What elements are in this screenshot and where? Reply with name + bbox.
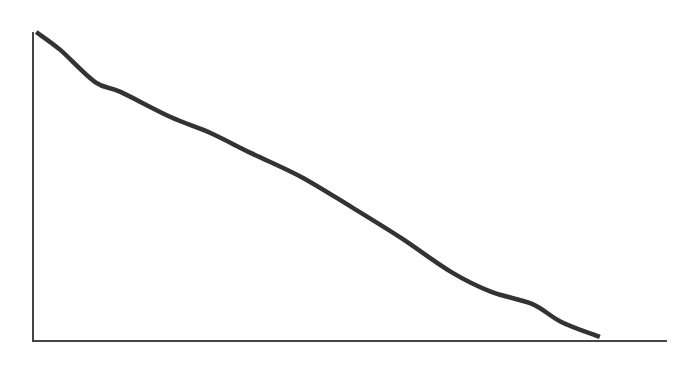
line-chart xyxy=(0,0,699,366)
data-line xyxy=(36,32,600,337)
